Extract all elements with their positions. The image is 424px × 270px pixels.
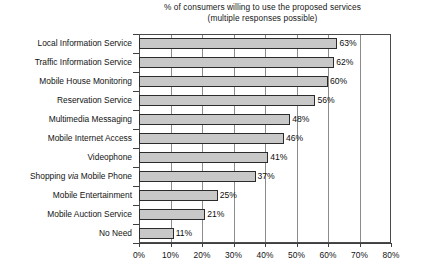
x-axis-tick-label: 40% [257, 249, 274, 261]
y-axis-tick [133, 205, 139, 206]
y-axis-tick [133, 53, 139, 54]
y-axis-tick [133, 129, 139, 130]
x-axis-tick [202, 243, 203, 247]
x-axis-tick [234, 243, 235, 247]
x-axis-tick-label: 20% [194, 249, 211, 261]
bar-value-label: 41% [270, 150, 287, 165]
bar-value-label: 62% [336, 55, 353, 70]
category-axis: Local Information ServiceTraffic Informa… [0, 34, 132, 243]
bar-row: 56% [139, 91, 391, 110]
x-axis-tick-label: 30% [225, 249, 242, 261]
bar-value-label: 48% [292, 112, 309, 127]
bar-value-label: 25% [220, 188, 237, 203]
category-label: Local Information Service [0, 34, 132, 53]
x-axis-tick-label: 60% [320, 249, 337, 261]
bar-row: 41% [139, 148, 391, 167]
bar [139, 171, 256, 182]
bar [139, 228, 174, 239]
bar-row: 21% [139, 205, 391, 224]
category-label: Mobile Internet Access [0, 129, 132, 148]
x-axis-tick-label: 50% [288, 249, 305, 261]
x-axis-tick-label: 70% [351, 249, 368, 261]
category-label: Traffic Information Service [0, 53, 132, 72]
y-axis-tick [133, 167, 139, 168]
bar [139, 133, 284, 144]
x-axis-tick-label: 80% [383, 249, 400, 261]
y-axis-tick [133, 91, 139, 92]
bar-row: 37% [139, 167, 391, 186]
chart-title-line1: % of consumers willing to use the propos… [164, 2, 361, 12]
bar [139, 209, 205, 220]
bar-value-label: 60% [330, 74, 347, 89]
category-label: Videophone [0, 148, 132, 167]
bar [139, 114, 290, 125]
y-axis-tick [133, 224, 139, 225]
y-axis-tick [133, 148, 139, 149]
bar-value-label: 63% [339, 36, 356, 51]
y-axis-tick [133, 186, 139, 187]
bar-chart: % of consumers willing to use the propos… [0, 0, 424, 270]
category-label: Mobile House Monitoring [0, 72, 132, 91]
chart-title: % of consumers willing to use the propos… [110, 2, 415, 24]
bar-row: 62% [139, 53, 391, 72]
category-label: Multimedia Messaging [0, 110, 132, 129]
category-label: Shopping via Mobile Phone [0, 167, 132, 186]
bar-row: 63% [139, 34, 391, 53]
x-axis-tick [171, 243, 172, 247]
x-axis-tick [391, 243, 392, 247]
x-axis-tick-label: 10% [162, 249, 179, 261]
bar-value-label: 46% [286, 131, 303, 146]
x-axis-tick-label: 0% [133, 249, 145, 261]
category-label: Mobile Entertainment [0, 186, 132, 205]
bar-row: 25% [139, 186, 391, 205]
bars-layer: 63%62%60%56%48%46%41%37%25%21%11% [139, 34, 391, 243]
y-axis-tick [133, 72, 139, 73]
category-label: Reservation Service [0, 91, 132, 110]
bar [139, 38, 337, 49]
x-axis-tick [139, 243, 140, 247]
bar-value-label: 56% [317, 93, 334, 108]
x-axis-tick [360, 243, 361, 247]
y-axis-tick [133, 110, 139, 111]
bar [139, 95, 315, 106]
bar-value-label: 37% [258, 169, 275, 184]
bar [139, 152, 268, 163]
bar [139, 57, 334, 68]
category-label: No Need [0, 224, 132, 243]
bar-value-label: 21% [207, 207, 224, 222]
x-axis-tick [297, 243, 298, 247]
bar [139, 190, 218, 201]
bar-value-label: 11% [176, 226, 193, 241]
bar-row: 48% [139, 110, 391, 129]
bar-row: 46% [139, 129, 391, 148]
bar-row: 11% [139, 224, 391, 243]
category-label: Mobile Auction Service [0, 205, 132, 224]
bar-row: 60% [139, 72, 391, 91]
y-axis-tick [133, 34, 139, 35]
x-axis-tick [328, 243, 329, 247]
y-axis-tick [133, 243, 139, 244]
x-axis-tick [265, 243, 266, 247]
chart-title-line2: (multiple responses possible) [110, 13, 415, 24]
bar [139, 76, 328, 87]
